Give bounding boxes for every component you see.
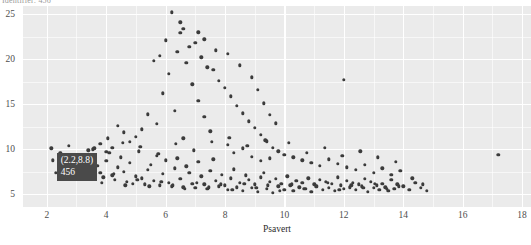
scatter-point[interactable]: [309, 161, 312, 164]
scatter-point[interactable]: [207, 185, 210, 188]
scatter-point[interactable]: [247, 178, 250, 181]
scatter-point[interactable]: [158, 184, 161, 187]
scatter-point[interactable]: [369, 180, 372, 183]
scatter-point[interactable]: [262, 171, 265, 174]
scatter-point[interactable]: [305, 151, 308, 154]
scatter-point[interactable]: [214, 48, 217, 51]
scatter-point[interactable]: [376, 156, 379, 159]
scatter-point[interactable]: [223, 86, 226, 89]
scatter-point[interactable]: [256, 190, 259, 193]
scatter-point[interactable]: [283, 153, 286, 156]
scatter-point[interactable]: [148, 185, 151, 188]
scatter-point[interactable]: [67, 144, 70, 147]
scatter-point[interactable]: [161, 172, 164, 175]
scatter-point[interactable]: [259, 176, 262, 179]
scatter-point[interactable]: [223, 184, 226, 187]
scatter-point[interactable]: [226, 143, 229, 146]
scatter-point[interactable]: [112, 172, 115, 175]
scatter-point[interactable]: [274, 177, 277, 180]
scatter-point[interactable]: [235, 104, 238, 107]
scatter-point[interactable]: [421, 183, 424, 186]
scatter-point[interactable]: [194, 41, 197, 44]
scatter-point[interactable]: [397, 185, 400, 188]
scatter-point[interactable]: [238, 181, 241, 184]
scatter-point[interactable]: [182, 137, 185, 140]
scatter-point[interactable]: [241, 112, 244, 115]
scatter-point[interactable]: [171, 184, 174, 187]
scatter-point[interactable]: [410, 176, 413, 179]
scatter-point[interactable]: [140, 128, 143, 131]
scatter-point[interactable]: [321, 188, 324, 191]
scatter-point[interactable]: [425, 189, 428, 192]
scatter-point[interactable]: [143, 183, 146, 186]
scatter-point[interactable]: [419, 186, 422, 189]
scatter-point[interactable]: [238, 64, 241, 67]
scatter-point[interactable]: [122, 130, 125, 133]
scatter-point[interactable]: [292, 189, 295, 192]
scatter-point[interactable]: [413, 181, 416, 184]
scatter-point[interactable]: [243, 182, 246, 185]
scatter-point[interactable]: [51, 158, 54, 161]
scatter-point[interactable]: [354, 188, 357, 191]
scatter-point[interactable]: [338, 188, 341, 191]
scatter-point[interactable]: [173, 109, 176, 112]
scatter-point[interactable]: [390, 173, 393, 176]
scatter-point[interactable]: [156, 152, 159, 155]
scatter-point[interactable]: [211, 68, 214, 71]
scatter-point[interactable]: [161, 92, 164, 95]
scatter-point[interactable]: [259, 133, 262, 136]
scatter-point[interactable]: [158, 54, 161, 57]
scatter-point[interactable]: [327, 186, 330, 189]
scatter-point[interactable]: [309, 190, 312, 193]
scatter-point[interactable]: [149, 163, 152, 166]
scatter-point[interactable]: [174, 142, 177, 145]
scatter-point[interactable]: [119, 156, 122, 159]
scatter-point[interactable]: [231, 188, 234, 191]
scatter-point[interactable]: [205, 66, 208, 69]
scatter-point[interactable]: [250, 155, 253, 158]
scatter-point[interactable]: [197, 160, 200, 163]
scatter-point[interactable]: [394, 160, 397, 163]
scatter-point[interactable]: [214, 179, 217, 182]
scatter-point[interactable]: [247, 120, 250, 123]
scatter-point[interactable]: [183, 187, 186, 190]
scatter-point[interactable]: [182, 27, 185, 30]
scatter-point[interactable]: [295, 179, 298, 182]
scatter-point[interactable]: [122, 170, 125, 173]
scatter-point[interactable]: [152, 179, 155, 182]
scatter-point[interactable]: [298, 185, 301, 188]
scatter-point[interactable]: [191, 182, 194, 185]
scatter-point[interactable]: [226, 52, 229, 55]
scatter-point[interactable]: [185, 61, 188, 64]
scatter-point[interactable]: [229, 176, 232, 179]
scatter-point[interactable]: [203, 183, 206, 186]
scatter-point[interactable]: [128, 161, 131, 164]
scatter-point[interactable]: [358, 149, 361, 152]
scatter-point[interactable]: [366, 190, 369, 193]
scatter-point[interactable]: [131, 182, 134, 185]
scatter-point[interactable]: [176, 157, 179, 160]
scatter-point[interactable]: [229, 94, 232, 97]
scatter-point[interactable]: [345, 179, 348, 182]
scatter-point[interactable]: [137, 149, 140, 152]
scatter-point[interactable]: [121, 141, 124, 144]
scatter-point[interactable]: [188, 45, 191, 48]
scatter-point[interactable]: [102, 176, 105, 179]
scatter-point[interactable]: [253, 126, 256, 129]
scatter-point[interactable]: [266, 184, 269, 187]
scatter-point[interactable]: [363, 163, 366, 166]
scatter-point[interactable]: [390, 178, 393, 181]
scatter-point[interactable]: [104, 159, 107, 162]
scatter-point[interactable]: [100, 181, 103, 184]
scatter-point[interactable]: [140, 176, 143, 179]
scatter-point[interactable]: [244, 174, 247, 177]
scatter-point[interactable]: [232, 151, 235, 154]
scatter-point[interactable]: [208, 130, 211, 133]
scatter-point[interactable]: [197, 30, 200, 33]
scatter-point[interactable]: [330, 182, 333, 185]
scatter-point[interactable]: [350, 184, 353, 187]
scatter-point[interactable]: [361, 186, 364, 189]
scatter-point[interactable]: [235, 185, 238, 188]
scatter-point[interactable]: [179, 21, 182, 24]
scatter-point[interactable]: [306, 176, 309, 179]
